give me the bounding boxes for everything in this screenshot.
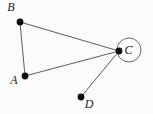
graph-diagram-canvas: BACD [0,0,153,114]
node-dot-D [78,94,85,101]
node-dot-B [17,19,24,26]
edge-B-C [20,22,119,51]
edge-A-C [25,51,119,76]
node-label-D: D [84,97,94,111]
node-label-C: C [124,43,133,57]
edge-B-A [20,22,25,76]
graph-svg: BACD [0,0,153,114]
edge-D-C [81,51,119,97]
node-dot-C [116,48,123,55]
node-dot-A [22,73,29,80]
node-label-B: B [7,0,15,14]
node-label-A: A [9,73,18,87]
